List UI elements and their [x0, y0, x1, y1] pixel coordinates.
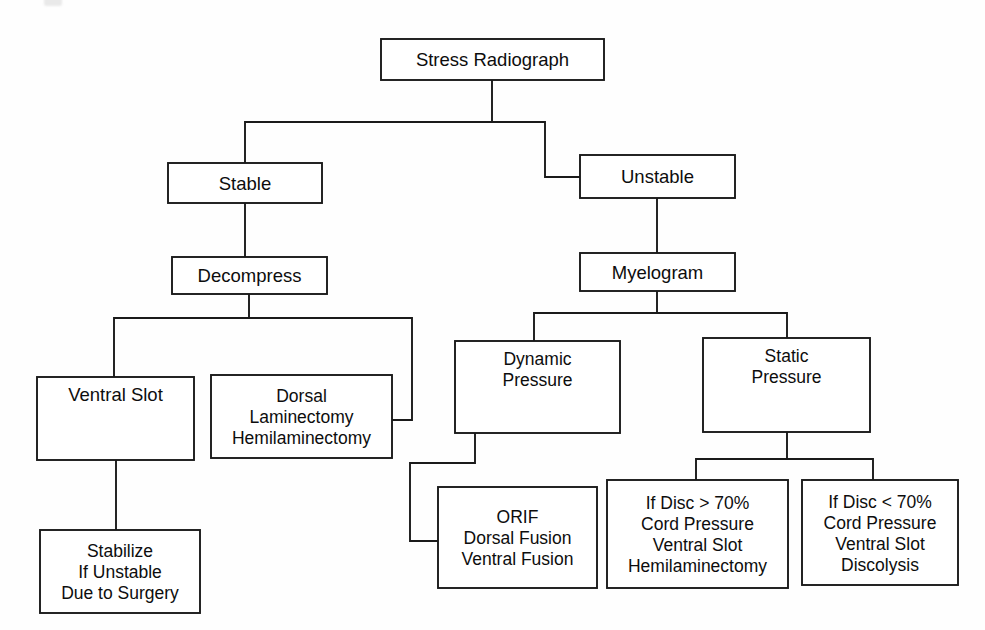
edge-layer — [114, 80, 873, 541]
node-label-line: If Disc < 70% — [828, 492, 932, 512]
node-ventral-slot[interactable]: Ventral Slot — [37, 377, 194, 460]
node-decompress[interactable]: Decompress — [172, 257, 327, 294]
node-label-line: Due to Surgery — [61, 583, 179, 603]
flowchart-svg: Stress RadiographStableUnstableDecompres… — [0, 0, 985, 630]
node-label-line: Stabilize — [87, 541, 153, 561]
node-label-line: Dorsal — [276, 386, 327, 406]
flowchart-canvas: Stress RadiographStableUnstableDecompres… — [0, 0, 985, 630]
node-stabilize-if-unstable[interactable]: StabilizeIf UnstableDue to Surgery — [40, 530, 200, 613]
node-label-line: Cord Pressure — [641, 514, 754, 534]
node-label-line: Dorsal Fusion — [464, 528, 572, 548]
node-label-myelogram: Myelogram — [612, 262, 704, 283]
node-label-line: Ventral Slot — [835, 534, 925, 554]
node-label-decompress: Decompress — [198, 265, 302, 286]
node-label-line: Pressure — [502, 370, 572, 390]
node-label-line: If Unstable — [78, 562, 162, 582]
node-label-line: Myelogram — [612, 262, 704, 283]
node-disc-greater-70[interactable]: If Disc > 70%Cord PressureVentral SlotHe… — [607, 480, 788, 588]
node-label-line: Hemilaminectomy — [232, 428, 371, 448]
node-label-line: Dynamic — [503, 349, 571, 369]
node-layer: Stress RadiographStableUnstableDecompres… — [37, 39, 958, 613]
node-dynamic-pressure[interactable]: DynamicPressure — [455, 341, 620, 433]
edge-static-pressure-disc-greater — [696, 432, 787, 480]
node-label-line: Laminectomy — [249, 407, 353, 427]
node-dorsal-laminectomy[interactable]: DorsalLaminectomyHemilaminectomy — [211, 375, 392, 458]
node-label-line: Static — [765, 346, 809, 366]
node-label-line: Cord Pressure — [824, 513, 937, 533]
node-label-ventral-slot: Ventral Slot — [68, 384, 163, 405]
node-static-pressure[interactable]: StaticPressure — [703, 338, 870, 432]
node-label-line: ORIF — [497, 507, 539, 527]
node-stress-radiograph[interactable]: Stress Radiograph — [381, 39, 604, 80]
edge-myelogram-dynamic-pressure — [534, 291, 657, 341]
node-label-line: Stress Radiograph — [416, 49, 569, 70]
node-label-line: Ventral Slot — [68, 384, 163, 405]
node-label-stable: Stable — [219, 173, 271, 194]
node-stable[interactable]: Stable — [168, 163, 322, 203]
node-disc-less-70[interactable]: If Disc < 70%Cord PressureVentral SlotDi… — [802, 480, 958, 585]
node-orif-fusion[interactable]: ORIFDorsal FusionVentral Fusion — [438, 487, 597, 588]
node-label-line: Discolysis — [841, 555, 919, 575]
edge-stress-radiograph-unstable — [492, 122, 580, 177]
node-label-line: Stable — [219, 173, 271, 194]
edge-stress-radiograph-split — [245, 80, 492, 163]
node-label-dynamic-pressure: DynamicPressure — [502, 349, 572, 390]
node-label-line: Ventral Slot — [653, 535, 743, 555]
node-label-line: Unstable — [621, 166, 694, 187]
node-label-line: If Disc > 70% — [646, 493, 750, 513]
node-myelogram[interactable]: Myelogram — [580, 253, 735, 291]
node-label-line: Hemilaminectomy — [628, 556, 767, 576]
node-label-line: Pressure — [751, 367, 821, 387]
node-label-unstable: Unstable — [621, 166, 694, 187]
edge-static-pressure-disc-less — [787, 459, 873, 480]
edge-myelogram-static-pressure — [657, 313, 787, 338]
node-unstable[interactable]: Unstable — [580, 155, 735, 198]
edge-decompress-ventral-slot — [114, 294, 249, 377]
node-label-line: Ventral Fusion — [462, 549, 574, 569]
node-label-stress-radiograph: Stress Radiograph — [416, 49, 569, 70]
node-label-line: Decompress — [198, 265, 302, 286]
